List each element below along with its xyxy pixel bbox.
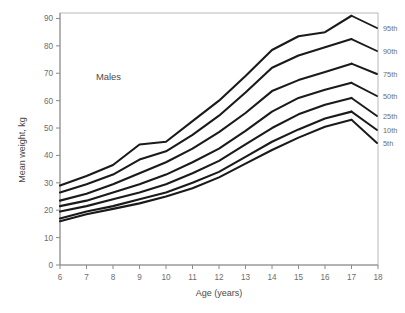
growth-chart-figure: 0102030405060708090 67891011121314151617…: [0, 0, 405, 313]
x-tick-label: 15: [294, 273, 304, 282]
x-tick-label: 10: [161, 273, 171, 282]
x-tick-label: 18: [373, 273, 383, 282]
y-tick-label: 60: [44, 97, 54, 106]
series-label: 25th: [383, 112, 397, 121]
series-label: 5th: [383, 139, 393, 148]
y-tick-label: 50: [44, 124, 54, 133]
x-tick-label: 17: [347, 273, 357, 282]
x-tick-label: 7: [84, 273, 89, 282]
y-tick-label: 70: [44, 69, 54, 78]
y-axis-title: Mean weight, kg: [17, 117, 27, 183]
y-tick-label: 30: [44, 179, 54, 188]
group-annotation-males: Males: [96, 71, 121, 82]
chart-canvas: 0102030405060708090 67891011121314151617…: [0, 0, 405, 313]
x-tick-label: 8: [111, 273, 116, 282]
x-axis-title: Age (years): [196, 288, 243, 298]
x-tick-label: 11: [188, 273, 197, 282]
x-tick-label: 16: [320, 273, 330, 282]
y-tick-label: 20: [44, 206, 54, 215]
y-tick-label: 80: [44, 42, 54, 51]
x-tick-label: 14: [267, 273, 277, 282]
series-label: 90th: [383, 47, 397, 56]
series-label: 50th: [383, 92, 397, 101]
x-tick-label: 9: [137, 273, 142, 282]
y-tick-label: 40: [44, 151, 54, 160]
y-tick-label: 10: [44, 234, 54, 243]
y-tick-label: 0: [48, 261, 53, 270]
series-label: 75th: [383, 70, 397, 79]
y-tick-label: 90: [44, 14, 54, 23]
series-label: 95th: [383, 24, 397, 33]
x-tick-label: 6: [58, 273, 63, 282]
x-tick-label: 13: [241, 273, 251, 282]
series-label: 10th: [383, 126, 397, 135]
x-tick-label: 12: [214, 273, 224, 282]
